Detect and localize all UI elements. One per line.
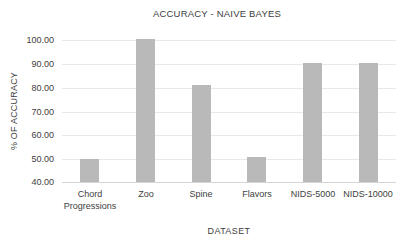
plot-area [62, 40, 396, 183]
bar-chord-progressions [80, 159, 99, 182]
chart-title: ACCURACY - NAIVE BAYES [0, 8, 408, 19]
x-category-label-zoo: Zoo [119, 188, 173, 200]
bar-spine [192, 85, 211, 182]
bar-zoo [136, 39, 155, 182]
y-tick-label-90: 90.00 [31, 59, 54, 70]
bar-flavors [247, 157, 266, 182]
x-axis-title: DATASET [62, 226, 396, 236]
x-category-label-spine: Spine [174, 188, 228, 200]
y-tick-label-70: 70.00 [31, 107, 54, 118]
x-axis-line [62, 182, 396, 183]
x-axis-category-labels: Chord ProgressionsZooSpineFlavorsNIDS-50… [62, 188, 396, 214]
x-category-label-chord-progressions: Chord Progressions [63, 188, 117, 212]
y-tick-label-40: 40.00 [31, 177, 54, 188]
y-tick-label-80: 80.00 [31, 83, 54, 94]
bar-chart: ACCURACY - NAIVE BAYES % OF ACCURACY 40.… [0, 0, 408, 245]
y-tick-label-100: 100.00 [26, 35, 54, 46]
y-axis-ticks: 40.0050.0060.0070.0080.0090.00100.00 [0, 40, 55, 183]
bar-nids-10000 [359, 63, 378, 182]
gridline-50 [62, 159, 396, 160]
gridline-60 [62, 135, 396, 136]
y-tick-label-60: 60.00 [31, 130, 54, 141]
y-tick-label-50: 50.00 [31, 154, 54, 165]
gridline-90 [62, 64, 396, 65]
gridline-100 [62, 40, 396, 41]
x-category-label-flavors: Flavors [230, 188, 284, 200]
x-category-label-nids-10000: NIDS-10000 [341, 188, 395, 200]
gridline-80 [62, 88, 396, 89]
x-category-label-nids-5000: NIDS-5000 [286, 188, 340, 200]
gridline-70 [62, 112, 396, 113]
bar-nids-5000 [303, 63, 322, 182]
